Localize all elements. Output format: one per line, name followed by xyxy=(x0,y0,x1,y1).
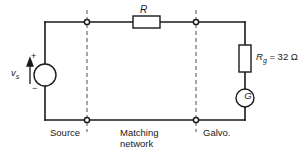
node-top-right-boundary xyxy=(193,19,198,24)
galvanometer-label: G xyxy=(239,91,257,102)
caption-matching-line1: Matching xyxy=(120,127,159,138)
source-polarity-minus: − xyxy=(32,83,37,93)
resistor-rg-subscript: g xyxy=(263,57,267,64)
resistor-r-body xyxy=(133,16,160,28)
circuit-diagram: R Rg = 32 Ω vs + − G Source Matching net… xyxy=(0,0,308,155)
node-top-left-boundary xyxy=(84,19,89,24)
caption-matching-line2: network xyxy=(120,138,159,149)
voltage-source-symbol xyxy=(34,64,56,86)
resistor-rg-body xyxy=(239,45,251,72)
caption-galvo: Galvo. xyxy=(203,127,230,138)
source-polarity-plus: + xyxy=(31,51,36,61)
resistor-rg-symbol-text: R xyxy=(256,51,263,62)
source-label: vs xyxy=(11,68,19,81)
source-subscript: s xyxy=(16,73,20,80)
node-bottom-right-boundary xyxy=(193,117,198,122)
caption-source: Source xyxy=(50,127,80,138)
caption-matching-network: Matching network xyxy=(120,127,159,149)
node-bottom-left-boundary xyxy=(84,117,89,122)
resistor-rg-value: = 32 Ω xyxy=(269,51,298,62)
resistor-rg-label: Rg = 32 Ω xyxy=(256,52,298,65)
resistor-r-label: R xyxy=(140,4,147,16)
